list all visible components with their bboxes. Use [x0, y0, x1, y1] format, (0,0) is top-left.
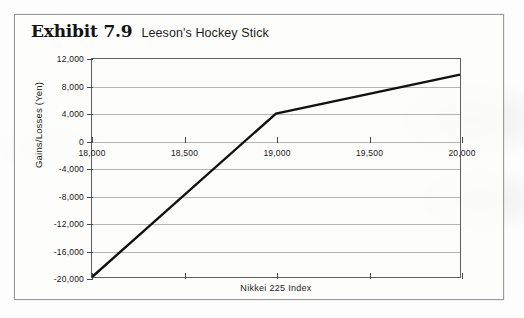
- chart-area: Gains/Losses (Yen) 12,0008,0004,0000-4,0…: [15, 15, 505, 301]
- y-tick-label: 12,000: [57, 54, 84, 64]
- y-tick-label: -12,000: [54, 219, 84, 229]
- y-tick-label: -8,000: [59, 192, 84, 202]
- x-tick-mark: [462, 137, 463, 143]
- x-tick-mark-bottom: [462, 273, 463, 279]
- series-line: [92, 59, 460, 277]
- y-tick-mark: [87, 279, 93, 280]
- y-tick-label: -20,000: [54, 274, 84, 284]
- y-tick-label: 8,000: [62, 82, 84, 92]
- y-tick-label: -16,000: [54, 247, 84, 257]
- series-polyline: [92, 75, 460, 277]
- y-axis-title: Gains/Losses (Yen): [33, 82, 44, 168]
- y-tick-label: 0: [79, 137, 84, 147]
- exhibit-frame: Exhibit 7.9Leeson's Hockey Stick Gains/L…: [14, 14, 504, 300]
- x-axis-title: Nikkei 225 Index: [91, 283, 461, 293]
- plot-frame: 12,0008,0004,0000-4,000-8,000-12,000-16,…: [91, 58, 461, 278]
- y-tick-label: -4,000: [59, 164, 84, 174]
- y-tick-label: 4,000: [62, 109, 84, 119]
